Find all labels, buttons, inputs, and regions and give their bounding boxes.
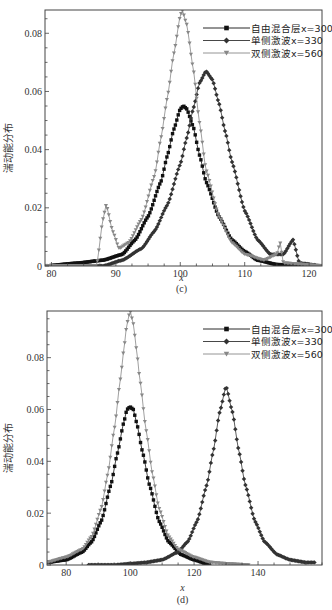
x-axis-label: x <box>179 582 185 593</box>
y-tick-label: 0.02 <box>27 508 45 519</box>
y-tick-label: 0.04 <box>25 144 43 155</box>
x-tick-label: 140 <box>251 567 266 578</box>
y-axis-label: 湍动能分布 <box>2 123 14 173</box>
series-line <box>89 388 315 565</box>
panel-label: (d) <box>177 594 189 606</box>
x-tick-label: 80 <box>46 268 56 279</box>
y-tick-label: 0 <box>39 560 44 571</box>
legend: 自由混合层x=300单侧激波x=330双侧激波x=560 <box>203 324 332 360</box>
y-tick-label: 0.04 <box>27 456 45 467</box>
legend-entry: 双侧激波x=560 <box>251 48 323 59</box>
x-tick-label: 100 <box>123 567 138 578</box>
series-markers <box>43 69 324 268</box>
legend: 自由混合层x=300单侧激波x=330双侧激波x=560 <box>203 23 332 59</box>
legend-entry: 单侧激波x=330 <box>251 336 323 347</box>
y-tick-label: 0.02 <box>25 202 43 213</box>
legend-entry: 自由混合层x=300 <box>251 324 332 335</box>
x-axis-label: x <box>178 272 184 283</box>
x-tick-label: 120 <box>187 567 202 578</box>
chart-panel-d: 00.020.040.060.0880100120140x湍动能分布(d)自由混… <box>2 310 332 606</box>
figure: 00.020.040.060.088090100110120x湍动能分布(c)自… <box>0 0 332 610</box>
series-markers <box>86 386 316 567</box>
y-tick-label: 0 <box>37 261 42 272</box>
y-tick-label: 0.08 <box>25 28 43 39</box>
legend-entry: 自由混合层x=300 <box>251 23 332 34</box>
y-tick-label: 0.08 <box>27 352 45 363</box>
y-axis-label: 湍动能分布 <box>2 423 14 473</box>
series-markers <box>45 310 251 567</box>
x-tick-label: 80 <box>61 567 71 578</box>
series-line <box>45 72 321 266</box>
series-line <box>47 407 210 565</box>
chart-panel-c: 00.020.040.060.088090100110120x湍动能分布(c)自… <box>2 9 332 295</box>
legend-entry: 双侧激波x=560 <box>251 349 323 360</box>
y-tick-label: 0.06 <box>27 404 45 415</box>
panel-label: (c) <box>176 283 187 295</box>
y-tick-label: 0.06 <box>25 86 43 97</box>
x-tick-label: 110 <box>237 268 252 279</box>
x-tick-label: 120 <box>302 268 317 279</box>
legend-entry: 单侧激波x=330 <box>251 35 323 46</box>
x-tick-label: 90 <box>111 268 121 279</box>
